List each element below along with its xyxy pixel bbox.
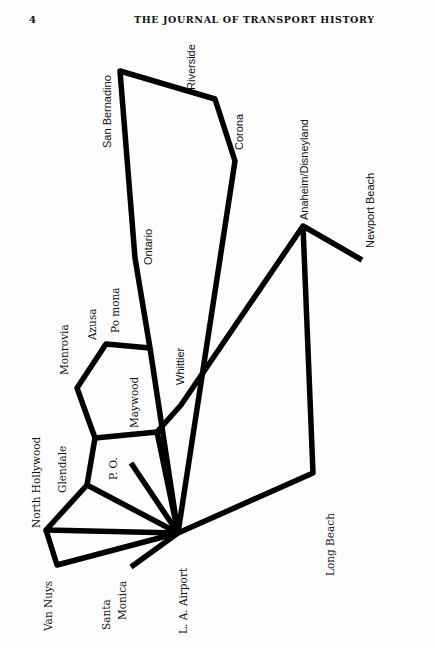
label-long-beach: Long Beach bbox=[324, 513, 336, 576]
label-whittier: Whittier bbox=[174, 347, 186, 385]
route-pomona-loop bbox=[77, 344, 157, 438]
label-la-airport: L. A. Airport bbox=[177, 567, 189, 634]
label-ontario: Ontario bbox=[142, 229, 154, 265]
label-azusa: Azusa bbox=[86, 308, 98, 341]
label-po: P. O. bbox=[107, 457, 119, 480]
label-riverside: Riverside bbox=[185, 44, 197, 90]
label-van-nuys: Van Nuys bbox=[42, 581, 54, 632]
place-labels: San Bernadino Riverside Corona Ontario A… bbox=[30, 44, 376, 634]
label-north-hollywood: North Hollywood bbox=[30, 436, 42, 528]
journal-page: 4 THE JOURNAL OF TRANSPORT HISTORY San B… bbox=[0, 0, 435, 648]
label-santa-monica-line2: Monica bbox=[116, 581, 128, 620]
label-pomona: Po mona bbox=[109, 287, 121, 333]
label-maywood: Maywood bbox=[128, 376, 140, 428]
label-newport-beach: Newport Beach bbox=[364, 173, 376, 248]
label-anaheim-disneyland: Anaheim/Disneyland bbox=[298, 119, 310, 220]
label-san-bernardino: San Bernadino bbox=[101, 75, 113, 148]
label-corona: Corona bbox=[233, 113, 245, 150]
label-monrovia: Monrovia bbox=[58, 324, 70, 375]
route-san-bernardino-loop bbox=[120, 71, 235, 533]
route-map-diagram: San Bernadino Riverside Corona Ontario A… bbox=[0, 0, 435, 648]
label-santa-monica-line1: Santa bbox=[100, 599, 112, 630]
label-glendale: Glendale bbox=[56, 446, 68, 493]
